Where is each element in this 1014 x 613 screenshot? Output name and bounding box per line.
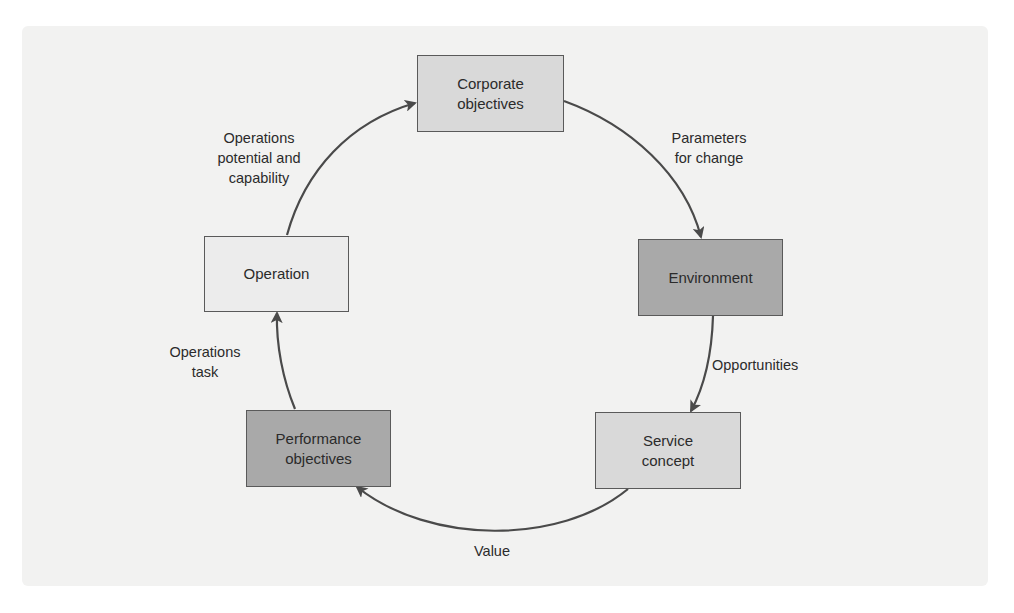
edge-service-to-performance [357,487,628,531]
node-environment: Environment [638,239,783,316]
node-operation: Operation [204,236,349,312]
node-service-concept: Service concept [595,412,741,489]
edge-corporate-to-environment [564,101,701,237]
node-label: Corporate objectives [457,74,524,114]
node-label: Performance objectives [276,429,362,469]
node-corporate-objectives: Corporate objectives [417,55,564,132]
node-performance-objectives: Performance objectives [246,410,391,487]
edge-label-operations-task: Operations task [160,342,250,382]
edge-label-opportunities: Opportunities [712,355,832,375]
edge-label-value: Value [462,541,522,561]
node-label: Environment [668,268,752,288]
node-label: Service concept [642,431,695,471]
edge-environment-to-service [691,316,713,411]
edge-label-parameters-for-change: Parameters for change [654,128,764,168]
node-label: Operation [244,264,310,284]
edge-label-operations-potential-and-capability: Operations potential and capability [204,128,314,188]
edge-performance-to-operation [277,313,295,409]
